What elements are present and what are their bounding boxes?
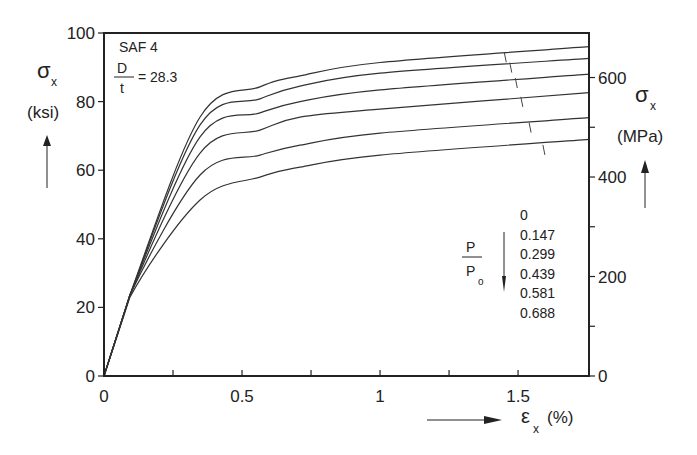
legend-title-denominator-sub: o (478, 276, 484, 287)
x-tick-label: 0 (99, 387, 108, 406)
curve-marker (543, 145, 545, 155)
y-left-arrowhead-icon (43, 135, 51, 146)
y-right-tick-label: 400 (598, 168, 626, 187)
y-right-subscript: x (650, 99, 656, 113)
curve-marker (529, 123, 531, 133)
curve-line (104, 139, 589, 376)
legend: P P o 00.1470.2990.4390.5810.688 (462, 207, 555, 321)
x-tick-label: 0.5 (230, 387, 254, 406)
ratio-denominator: t (120, 80, 124, 96)
y-left-tick-label: 20 (76, 298, 95, 317)
legend-entry: 0.439 (520, 266, 555, 282)
curve-line (104, 74, 589, 376)
y-left-tick-label: 40 (76, 230, 95, 249)
legend-down-arrowhead-icon (502, 276, 506, 292)
x-tick-label: 1.5 (506, 387, 530, 406)
legend-entry: 0.581 (520, 285, 555, 301)
y-left-unit: (ksi) (27, 103, 59, 122)
curve-end-markers (504, 52, 545, 155)
y-right-tick-label: 0 (598, 367, 607, 386)
x-tick-label: 1 (375, 387, 384, 406)
legend-entry: 0.688 (520, 305, 555, 321)
legend-title-denominator: P (466, 263, 475, 279)
x-subscript: x (533, 422, 539, 436)
x-unit: (%) (547, 408, 573, 427)
ratio-value: = 28.3 (138, 69, 178, 85)
curve-line (104, 58, 589, 376)
x-symbol: ε (521, 405, 530, 427)
y-left-tick-label: 60 (76, 161, 95, 180)
stress-strain-chart: 00.511.50204060801000200400600 SAF 4 D t… (0, 0, 697, 455)
legend-entry: 0.299 (520, 246, 555, 262)
legend-title-numerator: P (466, 239, 475, 255)
y-left-tick-label: 0 (86, 367, 95, 386)
material-label: SAF 4 (119, 39, 158, 55)
curve-line (104, 93, 589, 376)
y-left-symbol: σ (37, 58, 51, 83)
curve-marker (504, 52, 506, 62)
y-left-tick-label: 100 (67, 24, 95, 43)
curves-group (104, 47, 589, 376)
y-right-tick-label: 600 (598, 69, 626, 88)
curve-line (104, 118, 589, 376)
legend-entry: 0 (520, 207, 528, 223)
y-right-tick-label: 200 (598, 268, 626, 287)
y-right-unit: (MPa) (617, 127, 663, 146)
ratio-numerator: D (117, 60, 127, 76)
y-right-arrowhead-icon (641, 160, 649, 173)
legend-entry: 0.147 (520, 227, 555, 243)
y-left-subscript: x (51, 75, 57, 89)
x-arrowhead-icon (484, 416, 502, 424)
y-right-symbol: σ (635, 82, 649, 107)
y-left-tick-label: 80 (76, 93, 95, 112)
curve-line (104, 47, 589, 376)
